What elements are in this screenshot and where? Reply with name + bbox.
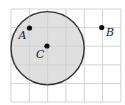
point-b-dot bbox=[99, 25, 104, 30]
point-a-dot bbox=[27, 25, 32, 30]
point-c-label: C bbox=[36, 48, 45, 61]
grid-diagram: A B C bbox=[0, 0, 125, 105]
point-a-label: A bbox=[18, 29, 27, 42]
point-b-label: B bbox=[105, 26, 114, 39]
point-c-dot bbox=[44, 43, 49, 48]
